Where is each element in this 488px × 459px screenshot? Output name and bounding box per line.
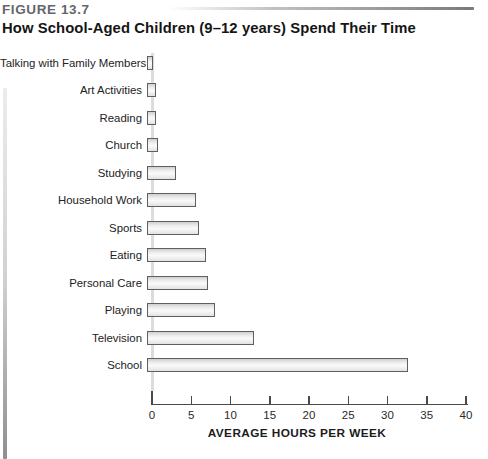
category-label: Television	[0, 332, 147, 344]
category-label: Personal Care	[0, 277, 147, 289]
tick-mark	[191, 396, 193, 404]
tick-label: 40	[460, 409, 473, 421]
tick-mark	[348, 396, 350, 404]
tick-mark	[230, 396, 232, 404]
bar-track	[147, 303, 461, 317]
bar	[147, 221, 199, 235]
chart-row: Television	[0, 324, 488, 352]
bar	[147, 138, 158, 152]
figure-title: How School-Aged Children (9–12 years) Sp…	[2, 20, 416, 36]
figure-label: FIGURE 13.7	[2, 2, 90, 17]
tick-label: 15	[263, 409, 276, 421]
bar	[147, 56, 153, 70]
bar	[147, 166, 176, 180]
bar-track	[147, 138, 461, 152]
bar-track	[147, 111, 461, 125]
tick-label: 20	[303, 409, 316, 421]
horizontal-bar-chart: Talking with Family Members Art Activiti…	[0, 49, 488, 459]
chart-row: Church	[0, 132, 488, 160]
bar-rows: Talking with Family Members Art Activiti…	[0, 49, 488, 379]
tick-label: 30	[381, 409, 394, 421]
tick-label: 10	[224, 409, 237, 421]
bar	[147, 83, 156, 97]
bar	[147, 358, 408, 372]
bar	[147, 303, 215, 317]
category-label: Household Work	[0, 194, 147, 206]
chart-row: Playing	[0, 297, 488, 325]
bar-track	[147, 166, 461, 180]
tick-label: 25	[342, 409, 355, 421]
figure-rule-line	[168, 7, 474, 10]
tick-label: 35	[420, 409, 433, 421]
bar	[147, 111, 156, 125]
tick-mark	[151, 391, 153, 404]
chart-row: Art Activities	[0, 77, 488, 105]
bar-track	[147, 221, 461, 235]
chart-row: Sports	[0, 214, 488, 242]
chart-row: School	[0, 352, 488, 380]
chart-row: Eating	[0, 242, 488, 270]
chart-row: Household Work	[0, 187, 488, 215]
bar	[147, 193, 196, 207]
chart-row: Reading	[0, 104, 488, 132]
bar-track	[147, 56, 461, 70]
category-label: School	[0, 359, 147, 371]
tick-mark	[387, 396, 389, 404]
category-label: Art Activities	[0, 84, 147, 96]
bar-track	[147, 83, 461, 97]
chart-row: Studying	[0, 159, 488, 187]
category-label: Reading	[0, 112, 147, 124]
category-label: Church	[0, 139, 147, 151]
tick-label: 0	[149, 409, 155, 421]
chart-row: Personal Care	[0, 269, 488, 297]
tick-mark	[308, 396, 310, 404]
category-label: Studying	[0, 167, 147, 179]
x-axis: 0 5 10 15 20 25 30 35 40	[152, 391, 466, 405]
bar	[147, 276, 208, 290]
chart-row: Talking with Family Members	[0, 49, 488, 77]
x-axis-title: AVERAGE HOURS PER WEEK	[140, 426, 454, 440]
category-label: Sports	[0, 222, 147, 234]
bar-track	[147, 276, 461, 290]
tick-mark	[269, 396, 271, 404]
bar-track	[147, 358, 461, 372]
bar-track	[147, 193, 461, 207]
figure-13-7-page: FIGURE 13.7 How School-Aged Children (9–…	[0, 0, 488, 459]
tick-mark	[465, 396, 467, 404]
bar	[147, 248, 206, 262]
bar	[147, 331, 254, 345]
tick-label: 5	[188, 409, 194, 421]
bar-track	[147, 331, 461, 345]
bar-track	[147, 248, 461, 262]
category-label: Eating	[0, 249, 147, 261]
category-label: Talking with Family Members	[0, 57, 147, 69]
category-label: Playing	[0, 304, 147, 316]
tick-mark	[426, 396, 428, 404]
